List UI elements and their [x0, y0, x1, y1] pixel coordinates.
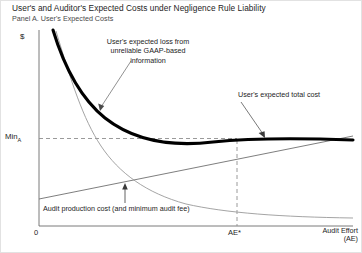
- x-axis-zero-label: 0: [34, 229, 38, 238]
- expected-loss-label-line3: information: [130, 56, 166, 65]
- x-axis-optimal-effort-label: AE*: [228, 229, 241, 238]
- expected-loss-leader-arrowhead: [98, 104, 104, 111]
- audit-production-cost-line: [39, 136, 353, 199]
- total-cost-leader-arrowhead: [259, 131, 265, 138]
- total-cost-curve-label: User's expected total cost: [238, 91, 320, 99]
- audit-production-cost-label: Audit production cost (and minimum audit…: [43, 205, 190, 213]
- expected-loss-curve-label: User's expected loss from unreliable GAA…: [96, 37, 200, 65]
- expected-loss-leader-line: [101, 61, 131, 107]
- figure-panel: User's and Auditor's Expected Costs unde…: [0, 0, 362, 253]
- expected-loss-label-line2: unreliable GAAP-based: [110, 46, 185, 55]
- expected-loss-label-line1: User's expected loss from: [107, 37, 189, 46]
- y-axis-dollar-label: $: [20, 32, 24, 41]
- x-axis-title: Audit Effort (AE): [312, 227, 358, 244]
- x-axis-title-line2: (AE): [344, 234, 358, 243]
- total-cost-leader-line: [241, 102, 263, 134]
- audit-production-cost-arrowhead: [122, 183, 128, 189]
- y-axis-min-label: MinA: [5, 132, 21, 143]
- min-label-subscript: A: [18, 137, 22, 143]
- min-label-text: Min: [5, 132, 18, 141]
